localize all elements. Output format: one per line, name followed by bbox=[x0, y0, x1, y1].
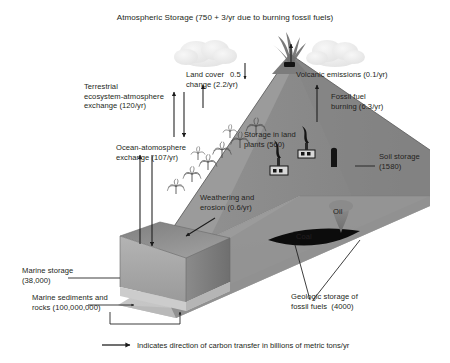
legend-label: Indicates direction of carbon transfer i… bbox=[137, 341, 349, 350]
label-geologic-storage: Geologic storage of fossil fuels (4000) bbox=[291, 292, 401, 311]
label-weathering-erosion: Weathering and erosion (0.6/yr) bbox=[200, 193, 286, 212]
label-marine-storage: Marine storage (38,000) bbox=[22, 266, 112, 285]
label-marine-sediments: Marine sediments and rocks (100,000,000) bbox=[32, 293, 144, 312]
label-coal: Coal bbox=[296, 232, 326, 242]
label-terrestrial-exchange: Terrestrial ecosystem-atmosphere exchang… bbox=[84, 82, 184, 111]
label-fossil-fuel-burning: Fossil fuel burning (6.3/yr) bbox=[331, 92, 421, 111]
label-soil-storage: Soil storage (1580) bbox=[379, 152, 449, 171]
label-storage-land-plants: Storage in land plants (560) bbox=[244, 130, 330, 149]
label-oil: Oil bbox=[333, 207, 355, 217]
cloud-right-icon bbox=[306, 40, 365, 67]
page-title: Atmospheric Storage (750 + 3/yr due to b… bbox=[0, 13, 450, 22]
label-volcanic-emissions: Volcanic emissions (0.1/yr) bbox=[296, 70, 446, 80]
label-ocean-atmosphere-exchange: Ocean-atomosphere exchange (107/yr) bbox=[116, 143, 222, 162]
cloud-left-icon bbox=[174, 40, 237, 67]
label-land-cover-value: 0.5 bbox=[230, 70, 250, 80]
oil-derrick-icon bbox=[331, 148, 337, 167]
